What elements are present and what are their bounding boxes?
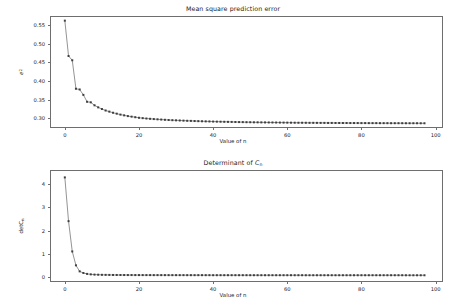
data-point-marker xyxy=(257,274,259,276)
data-point-marker xyxy=(405,122,407,124)
data-point-marker xyxy=(186,120,188,122)
data-point-marker xyxy=(119,274,121,276)
data-point-marker xyxy=(412,122,414,124)
data-point-marker xyxy=(79,270,81,272)
data-point-marker xyxy=(379,122,381,124)
data-point-marker xyxy=(234,121,236,123)
data-point-marker xyxy=(186,274,188,276)
data-point-marker xyxy=(149,274,151,276)
data-point-marker xyxy=(283,274,285,276)
data-point-marker xyxy=(290,274,292,276)
ytick-label: 0.35 xyxy=(18,97,45,103)
xtick-mark xyxy=(65,128,66,130)
data-point-marker xyxy=(260,121,262,123)
data-point-marker xyxy=(197,120,199,122)
data-point-marker xyxy=(138,117,140,119)
data-point-marker xyxy=(164,274,166,276)
data-point-marker xyxy=(279,122,281,124)
data-point-marker xyxy=(205,274,207,276)
xtick-mark xyxy=(213,128,214,130)
data-point-marker xyxy=(309,274,311,276)
data-point-marker xyxy=(416,274,418,276)
data-point-marker xyxy=(138,274,140,276)
data-point-marker xyxy=(71,59,73,61)
data-point-marker xyxy=(246,274,248,276)
data-point-marker xyxy=(279,274,281,276)
data-point-marker xyxy=(127,115,129,117)
xtick-label: 40 xyxy=(210,132,217,138)
data-point-marker xyxy=(338,274,340,276)
data-point-marker xyxy=(86,101,88,103)
data-point-marker xyxy=(179,119,181,121)
data-point-marker xyxy=(164,119,166,121)
ytick-label: 0.40 xyxy=(18,78,45,84)
data-point-marker xyxy=(201,120,203,122)
xtick-label: 100 xyxy=(431,286,441,292)
data-point-marker xyxy=(368,274,370,276)
data-point-marker xyxy=(212,121,214,123)
xtick-label: 100 xyxy=(431,132,441,138)
xtick-label: 0 xyxy=(63,132,66,138)
data-point-marker xyxy=(175,119,177,121)
data-point-marker xyxy=(305,122,307,124)
data-point-marker xyxy=(268,121,270,123)
data-point-marker xyxy=(242,121,244,123)
data-point-marker xyxy=(90,273,92,275)
data-point-marker xyxy=(301,122,303,124)
data-point-marker xyxy=(101,108,103,110)
series-line-top xyxy=(50,16,443,128)
data-point-marker xyxy=(208,274,210,276)
data-point-marker xyxy=(97,106,99,108)
data-point-marker xyxy=(101,274,103,276)
data-point-marker xyxy=(271,274,273,276)
data-point-marker xyxy=(420,122,422,124)
data-point-marker xyxy=(386,122,388,124)
data-point-marker xyxy=(323,274,325,276)
xtick-mark xyxy=(139,282,140,284)
data-point-marker xyxy=(68,55,70,57)
data-point-marker xyxy=(246,121,248,123)
data-point-marker xyxy=(175,274,177,276)
data-point-marker xyxy=(142,274,144,276)
data-point-marker xyxy=(182,120,184,122)
data-point-marker xyxy=(360,274,362,276)
data-point-marker xyxy=(286,274,288,276)
data-point-marker xyxy=(75,264,77,266)
data-point-marker xyxy=(216,121,218,123)
data-point-marker xyxy=(327,122,329,124)
data-point-marker xyxy=(372,274,374,276)
data-point-marker xyxy=(264,121,266,123)
data-point-marker xyxy=(86,273,88,275)
data-point-marker xyxy=(405,274,407,276)
xtick-label: 0 xyxy=(63,286,66,292)
data-point-marker xyxy=(242,274,244,276)
data-point-marker xyxy=(275,122,277,124)
chart-title-bottom: Determinant of Cn xyxy=(0,159,466,167)
series-line-bottom xyxy=(50,170,443,282)
data-point-marker xyxy=(383,274,385,276)
data-point-marker xyxy=(71,250,73,252)
data-point-marker xyxy=(93,274,95,276)
data-point-marker xyxy=(423,274,425,276)
data-point-marker xyxy=(394,122,396,124)
data-point-marker xyxy=(142,117,144,119)
xtick-mark xyxy=(287,128,288,130)
data-point-marker xyxy=(108,274,110,276)
data-point-marker xyxy=(238,121,240,123)
data-point-marker xyxy=(368,122,370,124)
data-point-marker xyxy=(286,122,288,124)
data-point-marker xyxy=(409,274,411,276)
ytick-label: 0.45 xyxy=(18,59,45,65)
data-point-marker xyxy=(212,274,214,276)
data-point-marker xyxy=(105,110,107,112)
data-point-marker xyxy=(68,220,70,222)
data-point-marker xyxy=(112,112,114,114)
xaxis-label-top: Value of n xyxy=(0,138,466,144)
data-point-marker xyxy=(360,122,362,124)
data-point-marker xyxy=(357,274,359,276)
data-point-marker xyxy=(364,274,366,276)
data-point-marker xyxy=(75,88,77,90)
xtick-mark xyxy=(287,282,288,284)
data-point-marker xyxy=(64,176,66,178)
data-point-marker xyxy=(131,116,133,118)
